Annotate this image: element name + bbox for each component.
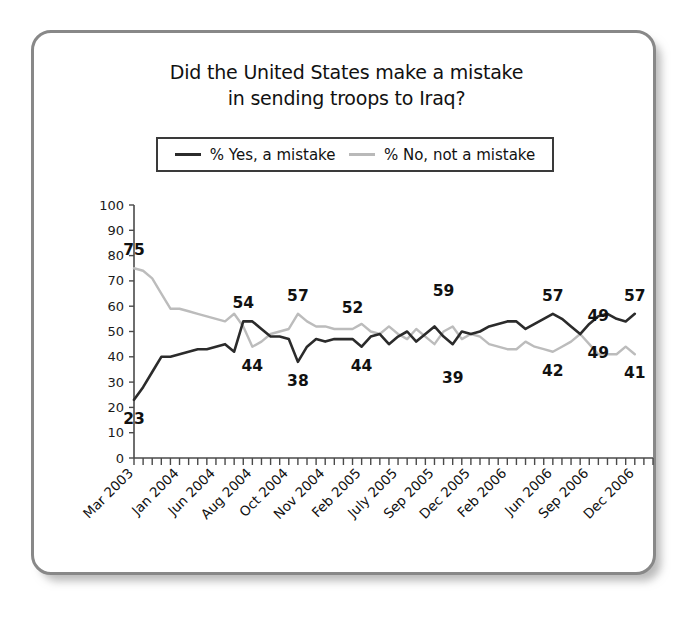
data-point-label: 41 bbox=[624, 364, 646, 382]
data-point-label: 52 bbox=[342, 299, 364, 317]
y-tick-label: 20 bbox=[107, 400, 124, 415]
y-tick-label: 80 bbox=[107, 248, 124, 263]
x-tick-label: Mar 2003 bbox=[79, 465, 136, 522]
x-axis bbox=[134, 458, 653, 465]
x-tick-label-group: Mar 2003Jan 2004Jun 2004Aug 2004Oct 2004… bbox=[79, 465, 636, 522]
y-tick-label: 0 bbox=[116, 451, 124, 466]
chart-card: Did the United States make a mistake in … bbox=[31, 30, 656, 575]
y-tick-label: 10 bbox=[107, 425, 124, 440]
line-chart-svg: 0102030405060708090100 75235444573852445… bbox=[34, 33, 659, 578]
data-point-label: 57 bbox=[287, 287, 309, 305]
data-point-label: 44 bbox=[351, 357, 373, 375]
data-label-group: 75235444573852445939574249495741 bbox=[123, 241, 645, 428]
y-tick-label: 70 bbox=[107, 273, 124, 288]
data-point-label: 23 bbox=[123, 410, 145, 428]
y-tick-label: 100 bbox=[99, 198, 124, 213]
data-point-label: 49 bbox=[588, 344, 610, 362]
data-point-label: 38 bbox=[287, 372, 309, 390]
y-tick-label: 30 bbox=[107, 375, 124, 390]
data-point-label: 59 bbox=[433, 282, 455, 300]
data-point-label: 57 bbox=[542, 287, 564, 305]
data-point-label: 44 bbox=[242, 357, 264, 375]
y-tick-label: 40 bbox=[107, 349, 124, 364]
data-point-label: 49 bbox=[588, 307, 610, 325]
data-point-label: 54 bbox=[232, 294, 254, 312]
plot-area: 0102030405060708090100 75235444573852445… bbox=[34, 33, 659, 578]
data-point-label: 39 bbox=[442, 369, 464, 387]
y-tick-label: 50 bbox=[107, 324, 124, 339]
y-tick-label: 60 bbox=[107, 299, 124, 314]
data-point-label: 42 bbox=[542, 362, 564, 380]
y-tick-label: 90 bbox=[107, 223, 124, 238]
data-point-label: 75 bbox=[123, 241, 145, 259]
series-line-no bbox=[134, 268, 635, 354]
series-line-yes bbox=[134, 314, 635, 400]
data-point-label: 57 bbox=[624, 287, 646, 305]
screenshot-root: Did the United States make a mistake in … bbox=[0, 0, 695, 618]
